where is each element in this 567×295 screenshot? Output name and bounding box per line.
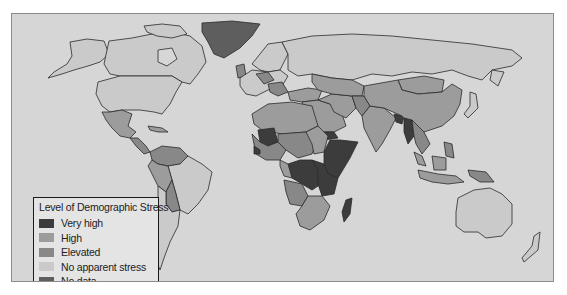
region-australia xyxy=(456,188,512,238)
map-legend: Level of Demographic Stress Very high Hi… xyxy=(33,197,159,282)
region-east-russia xyxy=(490,70,504,86)
region-scandinavia xyxy=(252,42,288,72)
legend-item-no-data: No data xyxy=(39,274,153,282)
region-japan xyxy=(464,92,478,118)
region-png xyxy=(468,170,494,182)
swatch-elevated xyxy=(39,248,54,257)
legend-item-no-apparent-stress: No apparent stress xyxy=(39,260,153,275)
legend-label: Very high xyxy=(61,217,103,229)
region-caribbean xyxy=(148,126,168,132)
region-malaysia xyxy=(414,152,426,166)
region-russia xyxy=(282,34,522,80)
region-central-america xyxy=(130,138,150,154)
region-mexico xyxy=(102,110,136,138)
swatch-no-data xyxy=(39,277,54,282)
region-borneo xyxy=(432,156,446,170)
region-usa xyxy=(96,76,182,114)
region-madagascar xyxy=(342,198,352,222)
region-alaska xyxy=(48,39,109,78)
region-new-zealand xyxy=(522,232,540,262)
world-map: Level of Demographic Stress Very high Hi… xyxy=(11,13,554,282)
legend-item-high: High xyxy=(39,231,153,246)
region-balkans xyxy=(268,82,288,96)
legend-label: No data xyxy=(61,275,96,282)
legend-title: Level of Demographic Stress xyxy=(39,201,153,213)
swatch-high xyxy=(39,233,54,242)
legend-label: High xyxy=(61,232,82,244)
swatch-no-apparent-stress xyxy=(39,262,54,271)
region-philippines xyxy=(444,142,454,158)
legend-item-very-high: Very high xyxy=(39,216,153,231)
legend-label: No apparent stress xyxy=(61,261,146,273)
region-greenland xyxy=(202,21,260,58)
swatch-very-high xyxy=(39,219,54,228)
region-indonesia xyxy=(418,170,464,184)
region-india xyxy=(362,106,396,152)
region-ethiopia-somalia xyxy=(324,140,358,178)
legend-label: Elevated xyxy=(61,246,100,258)
legend-item-elevated: Elevated xyxy=(39,245,153,260)
